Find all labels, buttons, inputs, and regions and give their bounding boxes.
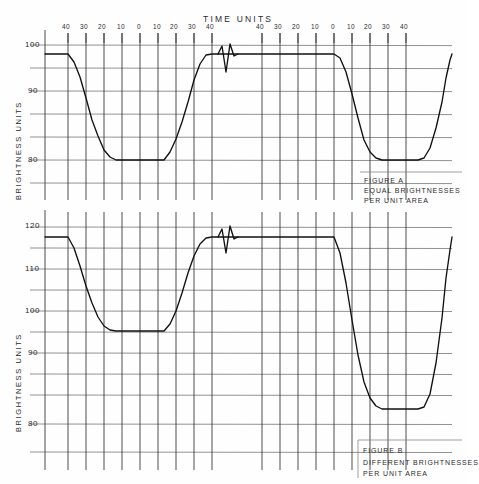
y-tick-label-b-0: 120 (25, 221, 40, 230)
x-tick-label-r-5: 10 (347, 23, 355, 30)
x-tick-label-l-3: 10 (117, 23, 125, 30)
y-axis-title-b: BRIGHTNESS UNITS (14, 333, 23, 432)
x-tick-label-l-6: 20 (170, 23, 178, 30)
gridlines-vertical-a (68, 33, 406, 200)
y-tick-label-a-2: 80 (28, 155, 38, 164)
caption-b-line2: DIFFERENT BRIGHTNESSES (363, 458, 479, 469)
x-tick-label-r-4: 0 (331, 23, 335, 30)
y-tick-label-a-0: 100 (25, 40, 40, 49)
x-tick-label-r-8: 40 (400, 23, 408, 30)
panel-figure-a (30, 30, 452, 200)
brightness-trace-a (45, 54, 452, 160)
brightness-trace-b (45, 237, 452, 409)
caption-a-line3: PER UNIT AREA (364, 196, 429, 207)
x-axis-ticks (68, 33, 406, 43)
x-tick-label-l-5: 10 (153, 23, 161, 30)
y-tick-label-b-2: 100 (25, 306, 40, 315)
x-tick-label-r-1: 30 (274, 23, 282, 30)
caption-a-line1: FIGURE A (364, 176, 404, 187)
x-tick-label-r-0: 40 (256, 23, 264, 30)
y-tick-label-b-4: 80 (28, 419, 38, 428)
x-tick-label-l-7: 30 (188, 23, 196, 30)
x-tick-label-l-8: 40 (206, 23, 214, 30)
caption-b-line3: PER UNIT AREA (363, 469, 428, 480)
x-tick-label-l-0: 40 (62, 23, 70, 30)
x-tick-label-r-2: 20 (292, 23, 300, 30)
x-tick-label-r-7: 30 (382, 23, 390, 30)
x-tick-label-r-3: 10 (311, 23, 319, 30)
x-tick-label-l-2: 20 (98, 23, 106, 30)
break-symbol-b (218, 226, 238, 253)
y-tick-label-b-3: 90 (28, 348, 38, 357)
gridlines-horizontal-b (30, 227, 452, 453)
caption-a-line2: EQUAL BRIGHTNESSES (364, 186, 460, 197)
y-tick-label-a-1: 90 (28, 86, 38, 95)
x-tick-label-l-4: 0 (137, 23, 141, 30)
y-axis-title-a: BRIGHTNESS UNITS (14, 101, 23, 200)
x-tick-label-l-1: 30 (80, 23, 88, 30)
caption-b-line1: FIGURE B (363, 446, 403, 457)
x-tick-label-r-6: 20 (364, 23, 372, 30)
panel-figure-b (30, 210, 452, 470)
break-symbol-a (218, 44, 238, 72)
y-tick-label-b-1: 110 (25, 264, 40, 273)
gridlines-horizontal-a (30, 45, 452, 184)
